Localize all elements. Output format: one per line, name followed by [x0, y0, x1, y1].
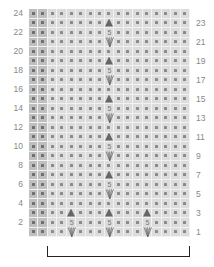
- dot-icon: [32, 88, 35, 91]
- chart-cell: [181, 38, 190, 48]
- chart-cell: [86, 209, 95, 219]
- chart-cell: [124, 228, 133, 238]
- chart-cell: [29, 171, 38, 181]
- chart-cell: [57, 190, 66, 200]
- chart-cell: [124, 199, 133, 209]
- dot-icon: [155, 31, 158, 34]
- row-label-9: 9: [196, 151, 201, 161]
- dot-icon: [183, 154, 186, 157]
- chart-cell: [152, 180, 161, 190]
- chart-cell: [67, 38, 76, 48]
- dot-icon: [70, 12, 73, 15]
- row-label-18: 18: [9, 65, 23, 75]
- chart-cell: [57, 76, 66, 86]
- chart-cell: [124, 190, 133, 200]
- chart-cell: [162, 152, 171, 162]
- chart-cell: [114, 76, 123, 86]
- chart-cell: [143, 28, 152, 38]
- dot-icon: [60, 97, 63, 100]
- dot-icon: [70, 202, 73, 205]
- dot-icon: [155, 59, 158, 62]
- chart-cell: [124, 66, 133, 76]
- chart-cell: [95, 28, 104, 38]
- dot-icon: [136, 211, 139, 214]
- dot-icon: [117, 21, 120, 24]
- dot-icon: [126, 230, 129, 233]
- dot-icon: [155, 221, 158, 224]
- chart-cell: [171, 66, 180, 76]
- dot-icon: [79, 12, 82, 15]
- chart-cell: [29, 123, 38, 133]
- dot-icon: [126, 107, 129, 110]
- chart-cell: [181, 114, 190, 124]
- chart-cell: [86, 228, 95, 238]
- chart-cell: [162, 76, 171, 86]
- chart-cell: [38, 19, 47, 29]
- dot-icon: [60, 173, 63, 176]
- dot-icon: [60, 107, 63, 110]
- dot-icon: [41, 21, 44, 24]
- dot-icon: [145, 78, 148, 81]
- chart-cell: [95, 114, 104, 124]
- dot-icon: [98, 173, 101, 176]
- chart-cell: [171, 152, 180, 162]
- dot-icon: [174, 192, 177, 195]
- chart-cell: [67, 114, 76, 124]
- dot-icon: [89, 192, 92, 195]
- dot-icon: [98, 97, 101, 100]
- dot-icon: [98, 192, 101, 195]
- chart-cell: [38, 66, 47, 76]
- chart-cell: [86, 28, 95, 38]
- dot-icon: [70, 50, 73, 53]
- dot-icon: [32, 211, 35, 214]
- dot-icon: [155, 154, 158, 157]
- dot-icon: [79, 183, 82, 186]
- dot-icon: [41, 50, 44, 53]
- dot-icon: [174, 164, 177, 167]
- dot-icon: [51, 78, 54, 81]
- dot-icon: [89, 154, 92, 157]
- chart-cell: [133, 209, 142, 219]
- chart-cell: [95, 152, 104, 162]
- chart-cell: [181, 180, 190, 190]
- chart-cell: [76, 85, 85, 95]
- chart-cell: [114, 57, 123, 67]
- chart-cell: [95, 57, 104, 67]
- chart-cell: [143, 85, 152, 95]
- chart-cell: [29, 161, 38, 171]
- dot-icon: [126, 221, 129, 224]
- dot-icon: [60, 116, 63, 119]
- dot-icon: [51, 50, 54, 53]
- dot-icon: [183, 31, 186, 34]
- chart-cell: [38, 9, 47, 19]
- chart-cell: [76, 38, 85, 48]
- dot-icon: [136, 97, 139, 100]
- dot-icon: [98, 126, 101, 129]
- dot-icon: [126, 88, 129, 91]
- chart-cell: [95, 19, 104, 29]
- dot-icon: [174, 50, 177, 53]
- dot-icon: [136, 31, 139, 34]
- chart-cell: [86, 190, 95, 200]
- dot-icon: [32, 40, 35, 43]
- dot-icon: [41, 173, 44, 176]
- chart-cell: [181, 19, 190, 29]
- dot-icon: [126, 31, 129, 34]
- chart-cell: [181, 199, 190, 209]
- chart-cell: [162, 161, 171, 171]
- chart-cell: [124, 152, 133, 162]
- dot-icon: [155, 88, 158, 91]
- chart-cell: [95, 190, 104, 200]
- dot-icon: [145, 59, 148, 62]
- dot-icon: [41, 31, 44, 34]
- dot-icon: [89, 59, 92, 62]
- chart-cell: [76, 9, 85, 19]
- dot-icon: [164, 173, 167, 176]
- dot-icon: [32, 97, 35, 100]
- dot-icon: [117, 97, 120, 100]
- chart-cell: [105, 85, 114, 95]
- dot-icon: [60, 164, 63, 167]
- dot-icon: [183, 211, 186, 214]
- dot-icon: [51, 126, 54, 129]
- chart-cell: [152, 152, 161, 162]
